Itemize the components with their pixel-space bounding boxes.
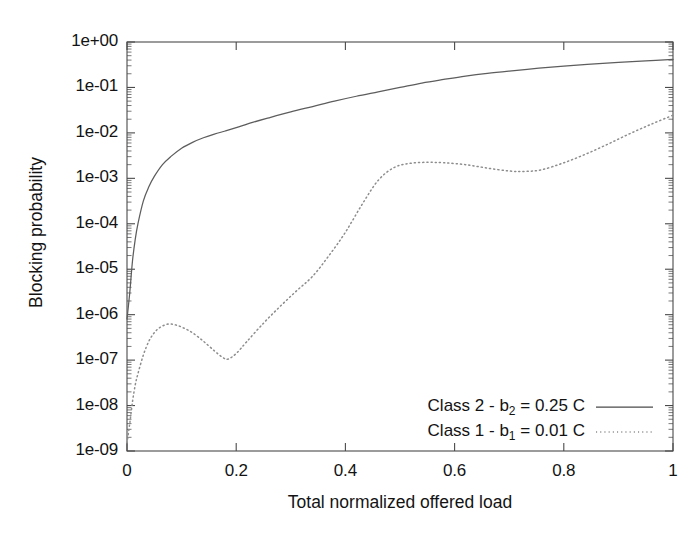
x-tick-label: 0 xyxy=(87,461,167,481)
series-line-class-1 xyxy=(127,115,673,443)
series-line-class-2 xyxy=(127,59,673,319)
legend-text-suffix: = 0.25 C xyxy=(516,396,585,415)
y-tick-label: 1e+00 xyxy=(18,31,118,51)
chart-figure: 1e+001e-011e-021e-031e-041e-051e-061e-07… xyxy=(0,0,698,533)
legend-text-suffix: = 0.01 C xyxy=(516,421,585,440)
legend-text-subscript: 2 xyxy=(509,404,516,418)
legend-entry-class-1: Class 1 - b1 = 0.01 C xyxy=(300,421,585,441)
legend-text-prefix: Class 2 - b xyxy=(428,396,509,415)
y-tick-label: 1e-08 xyxy=(18,395,118,415)
y-tick-label: 1e-01 xyxy=(18,76,118,96)
x-tick-label: 0.4 xyxy=(305,461,385,481)
x-tick-label: 0.6 xyxy=(415,461,495,481)
y-tick-label: 1e-09 xyxy=(18,440,118,460)
legend-entry-class-2: Class 2 - b2 = 0.25 C xyxy=(300,396,585,416)
plot-frame xyxy=(127,42,673,451)
axis-ticks xyxy=(127,42,673,451)
x-axis-title: Total normalized offered load xyxy=(127,492,673,513)
x-tick-label: 1 xyxy=(633,461,698,481)
y-axis-title: Blocking probability xyxy=(26,113,47,353)
legend-text-subscript: 1 xyxy=(509,429,516,443)
x-tick-label: 0.8 xyxy=(524,461,604,481)
x-tick-label: 0.2 xyxy=(196,461,276,481)
legend-text-prefix: Class 1 - b xyxy=(428,421,509,440)
